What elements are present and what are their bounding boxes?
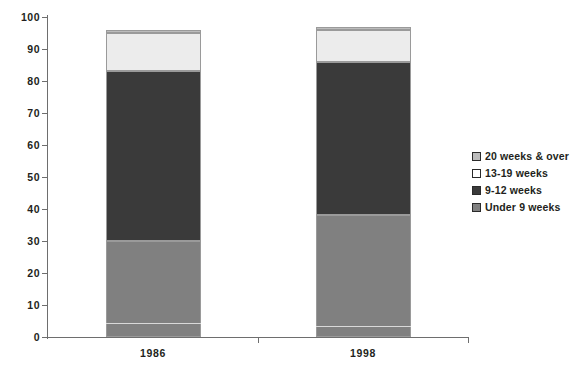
- legend-item-label: 13-19 weeks: [485, 167, 548, 179]
- legend-swatch-icon: [472, 203, 481, 212]
- x-tick-2: [468, 337, 469, 343]
- y-tick-label-30: 30: [0, 235, 40, 247]
- bar-segment-1998-under-9-weeks[interactable]: [316, 215, 411, 337]
- x-tick-1: [258, 337, 259, 343]
- bar-inner-rule-1998: [316, 326, 411, 327]
- y-tick-label-80: 80: [0, 75, 40, 87]
- legend-item-label: Under 9 weeks: [485, 201, 561, 213]
- y-tick-label-20: 20: [0, 267, 40, 279]
- x-axis-label-1998: 1998: [303, 347, 423, 359]
- y-tick-label-40: 40: [0, 203, 40, 215]
- y-tick-0: [42, 337, 48, 338]
- legend-item-label: 9-12 weeks: [485, 184, 542, 196]
- y-tick-label-10: 10: [0, 299, 40, 311]
- bar-segment-1998-13-19-weeks[interactable]: [316, 30, 411, 62]
- legend-item-under-9-weeks[interactable]: Under 9 weeks: [472, 201, 569, 213]
- legend-item-13-19-weeks[interactable]: 13-19 weeks: [472, 167, 569, 179]
- bar-inner-rule-1986: [106, 323, 201, 324]
- bar-segment-1986-9-12-weeks[interactable]: [106, 71, 201, 241]
- bar-segment-1986-13-19-weeks[interactable]: [106, 33, 201, 71]
- legend-item-20-weeks-over[interactable]: 20 weeks & over: [472, 150, 569, 162]
- legend-swatch-icon: [472, 169, 481, 178]
- y-tick-label-0: 0: [0, 331, 40, 343]
- y-tick-label-90: 90: [0, 43, 40, 55]
- plot-area: [48, 17, 468, 337]
- chart-legend: 20 weeks & over13-19 weeks9-12 weeksUnde…: [472, 150, 569, 213]
- y-tick-label-60: 60: [0, 139, 40, 151]
- legend-item-9-12-weeks[interactable]: 9-12 weeks: [472, 184, 569, 196]
- stacked-bar-chart: 0102030405060708090100 19861998 20 weeks…: [0, 0, 573, 373]
- x-axis-label-1986: 1986: [93, 347, 213, 359]
- legend-swatch-icon: [472, 186, 481, 195]
- bar-segment-1998-20-weeks-over[interactable]: [316, 27, 411, 30]
- y-tick-label-70: 70: [0, 107, 40, 119]
- bar-1998[interactable]: [316, 17, 411, 337]
- legend-item-label: 20 weeks & over: [485, 150, 569, 162]
- y-tick-label-50: 50: [0, 171, 40, 183]
- y-tick-label-100: 100: [0, 11, 40, 23]
- bar-1986[interactable]: [106, 17, 201, 337]
- bar-segment-1986-20-weeks-over[interactable]: [106, 30, 201, 33]
- legend-swatch-icon: [472, 152, 481, 161]
- bar-segment-1998-9-12-weeks[interactable]: [316, 62, 411, 216]
